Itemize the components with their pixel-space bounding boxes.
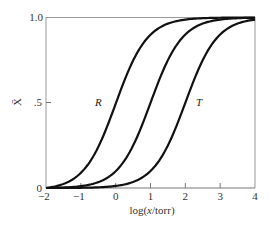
x-tick-label: 2 [183, 190, 189, 202]
x-tick-label: −1 [73, 190, 85, 202]
x-axis-label: log(x/torr) [129, 204, 175, 217]
x-tick-label: 4 [252, 190, 258, 202]
y-tick-label-1: 1.0 [29, 11, 43, 23]
curve-label-t: T [196, 96, 203, 108]
chart: −2−101234 1.0 .5 0 X̄ log(x/torr) R T [0, 0, 270, 227]
x-tick-label: 1 [148, 190, 154, 202]
curve-middle [46, 18, 255, 188]
y-tick-label-0: 0 [37, 182, 43, 194]
x-tick-labels: −2−101234 [38, 190, 258, 202]
y-tick-label-0.5: .5 [34, 96, 43, 108]
curve-label-r: R [94, 96, 102, 108]
curves [46, 18, 255, 188]
x-tick-label: 0 [113, 190, 119, 202]
y-axis-label: X̄ [11, 98, 23, 106]
x-tick-label: 3 [217, 190, 223, 202]
